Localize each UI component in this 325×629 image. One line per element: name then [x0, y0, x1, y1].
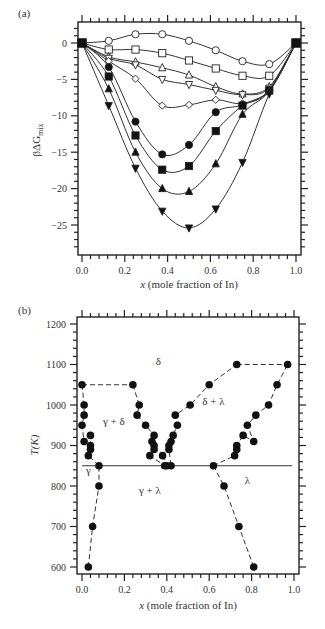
data-point	[252, 411, 260, 419]
data-point-open-square	[239, 72, 246, 79]
data-point	[146, 452, 154, 460]
phase-boundary-gamma-left	[88, 466, 99, 567]
panel-a-xlabel-text: (mole fraction of In)	[145, 278, 238, 291]
b-y-tick-label: 1000	[46, 400, 66, 411]
data-point	[80, 401, 88, 409]
b-y-tick-label: 900	[51, 440, 66, 451]
data-point	[233, 442, 241, 450]
panel-b-xlabel-text: (mole fraction of In)	[144, 599, 237, 612]
data-point-filled-triangle-up	[185, 187, 192, 194]
phase-boundary-delta-lambda-right	[213, 365, 287, 466]
b-y-tick-label: 600	[51, 562, 66, 573]
data-point-filled-triangle-down	[239, 159, 246, 166]
a-x-tick-label: 1.0	[290, 265, 303, 276]
data-point-filled-square	[159, 166, 166, 173]
b-x-tick-label: 0.8	[245, 584, 258, 595]
data-point-filled-circle	[185, 141, 192, 148]
data-point-filled-circle	[212, 109, 219, 116]
data-point	[233, 361, 241, 369]
panel-b-x-axis-title: x (mole fraction of In)	[138, 599, 237, 612]
data-point	[167, 462, 175, 470]
a-x-tick-label: 0.6	[204, 265, 217, 276]
data-point-open-diamond	[159, 102, 166, 109]
data-point-filled-square	[105, 73, 112, 80]
data-point	[78, 421, 86, 429]
figure: (a) βΔGmix x (mole fraction of In) 0.00.…	[0, 0, 325, 629]
data-point	[174, 421, 182, 429]
panel-a-y-axis-title: βΔGmix	[30, 123, 45, 156]
data-point	[205, 381, 213, 389]
data-point	[133, 411, 141, 419]
endpoint-marker	[78, 39, 86, 47]
data-point	[95, 482, 103, 490]
b-y-tick-label: 800	[51, 481, 66, 492]
data-point	[250, 563, 258, 571]
a-y-tick-label: −10	[51, 110, 67, 121]
data-point-open-circle	[185, 37, 192, 44]
panel-b-y-axis-title: T(K)	[28, 434, 41, 455]
data-point	[220, 482, 228, 490]
data-point-filled-square	[132, 132, 139, 139]
data-point-open-circle	[159, 31, 166, 38]
data-point-open-circle	[132, 31, 139, 38]
panel-b-label: (b)	[18, 304, 31, 317]
data-point-open-square	[185, 57, 192, 64]
a-y-tick-label: −5	[56, 74, 67, 85]
region-label: λ	[245, 474, 251, 486]
data-point-open-circle	[105, 37, 112, 44]
data-point	[186, 401, 194, 409]
a-y-tick-label: −15	[51, 147, 67, 158]
b-y-tick-label: 1200	[46, 319, 66, 330]
data-point	[273, 381, 281, 389]
panel-b: (b) T(K) x (mole fraction of In) 0.00.20…	[18, 304, 306, 612]
data-point	[159, 452, 167, 460]
data-point	[85, 563, 93, 571]
data-point	[135, 401, 143, 409]
b-x-tick-label: 1.0	[288, 584, 301, 595]
data-point-filled-triangle-down	[105, 103, 112, 110]
data-point-filled-square	[212, 127, 219, 134]
a-x-tick-label: 0.4	[161, 265, 174, 276]
data-point	[89, 523, 97, 531]
data-point	[78, 381, 86, 389]
data-point-filled-circle	[132, 118, 139, 125]
b-y-tick-label: 700	[51, 521, 66, 532]
data-point	[244, 421, 252, 429]
data-point	[80, 411, 88, 419]
data-point-filled-triangle-up	[132, 148, 139, 155]
a-x-tick-label: 0.8	[247, 265, 260, 276]
data-point-open-diamond	[212, 96, 219, 103]
data-point	[250, 438, 258, 446]
data-point-filled-triangle-down	[132, 165, 139, 172]
data-point-open-square	[159, 50, 166, 57]
b-x-tick-label: 0.0	[76, 584, 89, 595]
region-label: γ + δ	[102, 415, 125, 427]
panel-a-ylabel-sub: mix	[36, 123, 45, 135]
data-point-open-diamond	[185, 101, 192, 108]
region-label: γ	[85, 464, 91, 476]
a-y-tick-label: 0	[62, 38, 67, 49]
data-point-filled-circle	[105, 63, 112, 70]
data-point-open-circle	[266, 61, 273, 68]
data-point-filled-square	[185, 162, 192, 169]
region-label: δ + λ	[202, 395, 225, 407]
b-plot-frame	[77, 317, 299, 574]
data-point	[210, 462, 218, 470]
region-label: γ + λ	[138, 484, 162, 496]
data-point	[284, 361, 292, 369]
data-point	[95, 462, 103, 470]
data-point-filled-triangle-up	[159, 184, 166, 191]
data-point	[265, 401, 273, 409]
panel-a: (a) βΔGmix x (mole fraction of In) 0.00.…	[18, 7, 308, 291]
data-point	[235, 523, 243, 531]
data-point-filled-triangle-down	[185, 225, 192, 232]
data-point-open-circle	[239, 58, 246, 65]
a-y-tick-label: −25	[51, 220, 67, 231]
data-point	[171, 411, 179, 419]
data-point-open-square	[132, 46, 139, 53]
region-label: δ	[156, 355, 161, 367]
data-point-open-circle	[212, 47, 219, 54]
data-point	[142, 421, 150, 429]
data-point-open-square	[266, 72, 273, 79]
a-x-tick-label: 0.0	[76, 265, 89, 276]
